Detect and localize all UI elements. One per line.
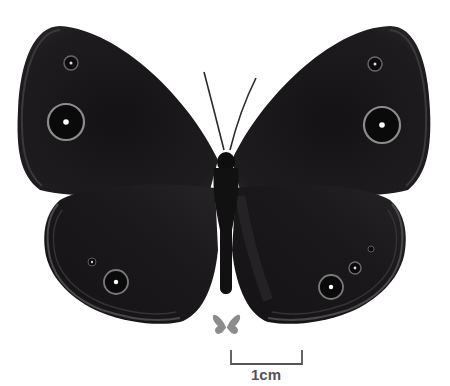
left-hindwing (44, 184, 218, 323)
right-forewing (232, 26, 430, 196)
butterfly-photo: 1cm (0, 0, 450, 386)
scale-bar (231, 350, 302, 364)
left-forewing (18, 26, 218, 196)
butterfly-illustration (0, 0, 450, 386)
scale-bar-label: 1cm (238, 366, 294, 383)
butterfly-silhouette-icon (213, 315, 240, 334)
right-hindwing (232, 184, 406, 323)
